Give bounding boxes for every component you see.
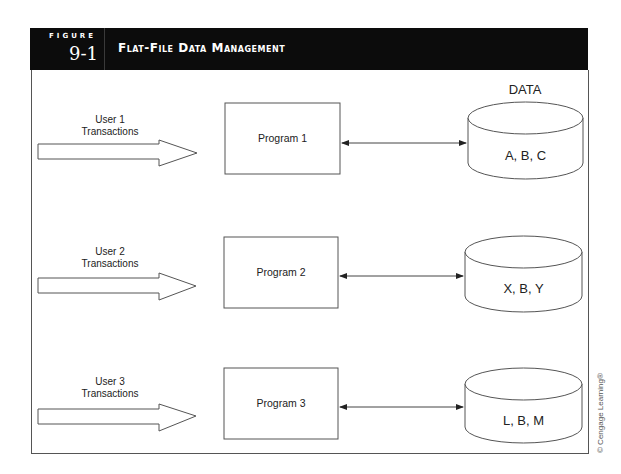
data-cylinder-2 xyxy=(465,236,582,312)
transaction-arrow-3 xyxy=(38,404,196,431)
user-label-1: User 1 Transactions xyxy=(60,114,160,138)
data-label-2: X, B, Y xyxy=(465,281,582,296)
program-label-3: Program 3 xyxy=(224,397,338,409)
data-cylinder-1 xyxy=(468,102,583,179)
transaction-arrow-2 xyxy=(38,273,196,300)
data-heading: DATA xyxy=(495,82,555,97)
transaction-arrow-1 xyxy=(38,140,197,166)
user-transactions-3: Transactions xyxy=(60,388,160,400)
user-name-1: User 1 xyxy=(60,114,160,126)
copyright-notice: © Cengage Learning® xyxy=(596,379,608,453)
user-name-2: User 2 xyxy=(60,246,160,258)
program-label-2: Program 2 xyxy=(224,266,338,278)
user-name-3: User 3 xyxy=(60,376,160,388)
user-transactions-2: Transactions xyxy=(60,258,160,270)
program-label-1: Program 1 xyxy=(225,132,340,144)
user-label-3: User 3 Transactions xyxy=(60,376,160,400)
data-label-3: L, B, M xyxy=(465,413,582,428)
data-cylinder-3 xyxy=(465,368,582,443)
user-label-2: User 2 Transactions xyxy=(60,246,160,270)
data-label-1: A, B, C xyxy=(468,148,583,163)
user-transactions-1: Transactions xyxy=(60,126,160,138)
